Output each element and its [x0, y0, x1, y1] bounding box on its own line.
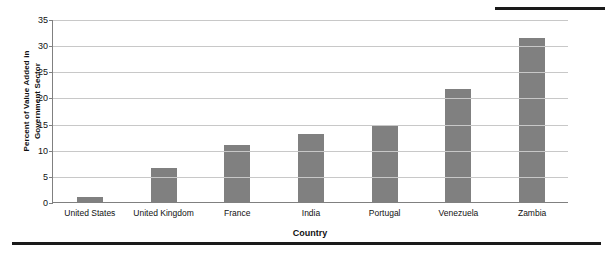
bar	[77, 197, 103, 202]
y-axis-tick-label: 20	[38, 93, 48, 103]
y-axis-tick-label: 0	[43, 198, 48, 208]
y-axis-tickmark	[49, 203, 53, 204]
gridline	[53, 125, 568, 126]
gridline	[53, 151, 568, 152]
x-axis-tick-label: France	[224, 208, 250, 218]
gridline	[53, 20, 568, 21]
gridline	[53, 46, 568, 47]
bar-series: United StatesUnited KingdomFranceIndiaPo…	[53, 20, 568, 202]
x-axis-tick-label: United Kingdom	[133, 208, 193, 218]
x-axis-tick-label: United States	[64, 208, 115, 218]
bar-group: United States	[53, 20, 127, 202]
y-axis-tickmark	[49, 46, 53, 47]
y-axis-tickmark	[49, 20, 53, 21]
y-axis-tick-label: 5	[43, 172, 48, 182]
gridline	[53, 177, 568, 178]
y-axis-tickmark	[49, 98, 53, 99]
y-axis-tick-label: 10	[38, 146, 48, 156]
y-axis-tickmark	[49, 177, 53, 178]
y-axis-tickmark	[49, 151, 53, 152]
bar	[298, 134, 324, 202]
bar-group: Zambia	[495, 20, 569, 202]
gridline	[53, 72, 568, 73]
x-axis-tick-label: Venezuela	[439, 208, 479, 218]
bar-group: United Kingdom	[127, 20, 201, 202]
y-axis-tickmark	[49, 125, 53, 126]
bar-chart: Percent of Value Added in Government Sec…	[0, 8, 613, 230]
bar-group: Venezuela	[422, 20, 496, 202]
y-axis-tick-label: 30	[38, 41, 48, 51]
y-axis-title-line1: Percent of Value Added in	[21, 21, 32, 181]
bar-group: India	[274, 20, 348, 202]
bar-group: France	[200, 20, 274, 202]
plot-area: United StatesUnited KingdomFranceIndiaPo…	[52, 20, 568, 203]
bar-group: Portugal	[348, 20, 422, 202]
y-axis-tick-label: 35	[38, 15, 48, 25]
x-axis-tick-label: Portugal	[369, 208, 401, 218]
bottom-rule	[12, 242, 601, 245]
x-axis-tick-label: Zambia	[518, 208, 546, 218]
gridline	[53, 98, 568, 99]
y-axis-tick-label: 15	[38, 120, 48, 130]
y-axis-tick-label: 25	[38, 67, 48, 77]
x-axis-title: Country	[52, 228, 568, 238]
bar	[151, 168, 177, 203]
bar	[445, 89, 471, 202]
x-axis-tick-label: India	[302, 208, 320, 218]
bar	[224, 145, 250, 203]
chart-page: Percent of Value Added in Government Sec…	[0, 0, 613, 255]
bar	[372, 126, 398, 202]
y-axis-tickmark	[49, 72, 53, 73]
